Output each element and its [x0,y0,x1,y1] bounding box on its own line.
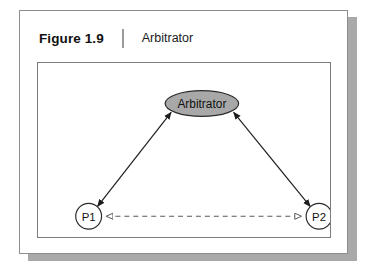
node-p2-label: P2 [312,211,326,223]
figure-caption: Arbitrator [142,31,193,45]
figure-stage: Figure 1.9 Arbitrator [0,0,368,271]
figure-header: Figure 1.9 Arbitrator [20,25,347,51]
figure-card: Figure 1.9 Arbitrator [19,10,348,254]
node-p1-label: P1 [82,211,96,223]
node-arbitrator-label: Arbitrator [177,97,226,111]
diagram-canvas: Arbitrator P1 P2 [37,62,331,238]
edge-p1-arbitrator [98,112,171,206]
header-divider [122,29,124,48]
arbitrator-diagram: Arbitrator P1 P2 [38,63,330,237]
edge-p2-arbitrator [234,112,310,206]
figure-number-label: Figure 1.9 [39,31,104,46]
